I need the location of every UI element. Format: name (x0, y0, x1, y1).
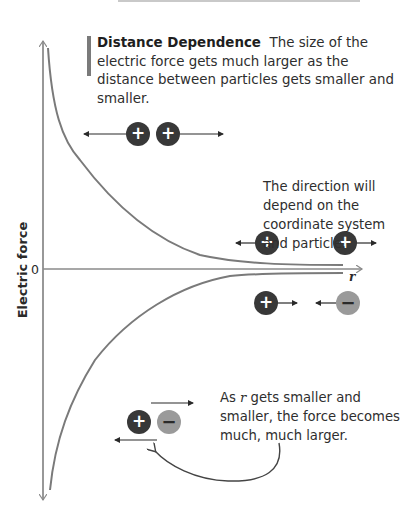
zero-tick-label: 0 (31, 262, 39, 277)
negative-particle: − (336, 291, 360, 315)
positive-particle: + (156, 122, 180, 146)
positive-particle: + (127, 410, 151, 434)
negative-particle: − (157, 410, 181, 434)
y-axis-label: Electric force (15, 222, 30, 319)
attractive-curve (50, 273, 343, 490)
distance-note: As r gets smaller and smaller, the force… (220, 388, 400, 445)
direction-note: The direction will depend on the coordin… (263, 177, 403, 253)
note-text: As (220, 390, 240, 405)
x-axis-label: r (349, 270, 355, 284)
curved-arrow (155, 443, 280, 481)
positive-particle: + (126, 122, 150, 146)
note-text: gets smaller and smaller, the force beco… (220, 390, 400, 443)
positive-particle: + (254, 291, 278, 315)
